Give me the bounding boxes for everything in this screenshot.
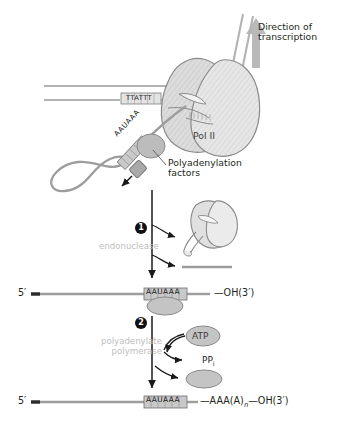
product2-five-prime-label: 5′	[18, 396, 26, 407]
bound-factor-icon	[147, 297, 183, 315]
ppi-subscript: i	[213, 360, 215, 368]
step-1-badge: 1	[135, 222, 147, 234]
direction-line-1: Direction of	[258, 21, 312, 32]
direction-of-transcription-label: Direction oftranscription	[258, 22, 317, 43]
pol-ii-label: Pol II	[193, 131, 215, 141]
direction-line-2: transcription	[258, 31, 317, 42]
product1-signal-text: AAUAAA	[146, 288, 180, 296]
product2-oh-text: —OH(3′)	[248, 395, 288, 406]
product1-three-prime-label: —OH(3′)	[214, 288, 254, 299]
atp-label: ATP	[192, 331, 208, 341]
dna-sequence-text: TTATTT	[126, 95, 152, 103]
product2-three-prime-label: —AAA(A)n—OH(3′)	[200, 396, 288, 410]
pap-line-1: polyadenylate	[101, 336, 162, 346]
factors-line-2: factors	[168, 167, 200, 178]
ppi-label: PPi	[202, 355, 215, 368]
ppi-text: PP	[202, 355, 213, 365]
pol-ii-enzyme	[161, 58, 259, 156]
factors-line-1: Polyadenylation	[168, 157, 242, 168]
pap-line-2: polymerase	[112, 346, 162, 356]
step1-reaction-arrow	[152, 190, 175, 278]
polyadenylation-factor-icon	[137, 134, 165, 158]
released-factor-oval	[186, 370, 222, 388]
endonuclease-label: endonuclease	[99, 242, 159, 252]
polyadenylation-diagram	[0, 0, 339, 421]
polyadenylate-polymerase-label: polyadenylatepolymerase	[92, 337, 162, 356]
product1-five-prime-label: 5′	[18, 288, 26, 299]
released-pol-ii-icon	[184, 201, 238, 256]
poly-a-prefix: —AAA(A)	[200, 395, 244, 406]
polyadenylation-factors-label: Polyadenylationfactors	[168, 158, 242, 179]
step-2-badge: 2	[135, 317, 147, 329]
product2-signal-text: AAUAAA	[146, 396, 180, 404]
